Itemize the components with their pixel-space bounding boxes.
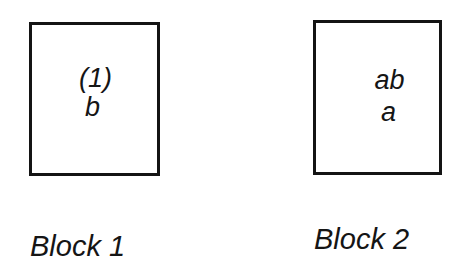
block-2-content-line-2: a <box>338 97 439 127</box>
block-1-content-line-1: (1) <box>34 63 157 93</box>
block-2-label: Block 2 <box>314 223 409 255</box>
block-1-label: Block 1 <box>30 230 125 262</box>
block-2-box: ab a <box>313 20 442 175</box>
block-1-box: (1) b <box>29 22 160 176</box>
block-2-content-line-1: ab <box>340 65 439 95</box>
block-1-content-line-2: b <box>28 92 157 122</box>
